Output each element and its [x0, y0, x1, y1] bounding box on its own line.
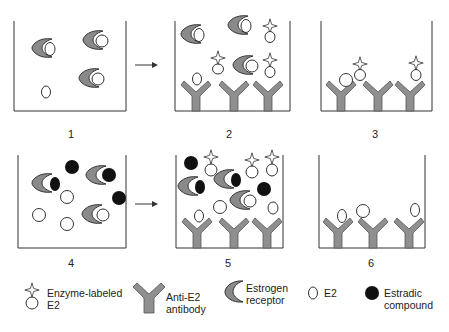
receptor-e2-complex — [82, 205, 109, 224]
enzyme-labeled-e2 — [263, 53, 277, 78]
legend-estradic-compound: Estradic compound — [384, 287, 433, 311]
panel-number-4: 4 — [61, 257, 81, 269]
anti-e2-antibody — [358, 218, 388, 248]
free-e2 — [33, 209, 46, 222]
bound-enzyme-labeled-e2 — [409, 56, 423, 81]
anti-e2-antibody — [394, 218, 424, 248]
anti-e2-antibody — [323, 218, 353, 248]
enzyme-labeled-e2-icon — [25, 283, 39, 309]
legend-label: E2 — [47, 299, 122, 311]
anti-e2-antibody — [253, 81, 283, 111]
estradic-compound — [257, 182, 271, 196]
anti-e2-antibody — [326, 81, 356, 111]
receptor-compound-complex — [178, 177, 205, 196]
crescent-receptor-icon — [225, 281, 243, 302]
receptor-e2-complex — [32, 39, 55, 58]
legend-label: Estradic — [384, 287, 433, 299]
panel-2 — [175, 16, 290, 111]
receptor-compound-complex — [214, 170, 241, 189]
legend-label: Anti-E2 — [166, 291, 206, 303]
panel-5 — [176, 150, 283, 248]
free-e2 — [61, 218, 74, 231]
receptor-e2-complex — [181, 25, 204, 44]
legend-e2: E2 — [324, 287, 337, 299]
receptor-compound-complex — [32, 174, 60, 193]
receptor-compound-complex — [86, 166, 116, 185]
legend-label: Enzyme-labeled — [47, 287, 122, 299]
legend-label: Estrogen — [246, 282, 288, 294]
bound-e2 — [340, 74, 353, 87]
legend-label: antibody — [166, 303, 206, 315]
receptor-e2-complex — [228, 16, 251, 35]
anti-e2-antibody — [182, 218, 212, 248]
free-e2 — [42, 86, 51, 98]
panel-1 — [14, 21, 126, 111]
legend-label: receptor — [246, 294, 288, 306]
well-outline — [14, 21, 126, 111]
enzyme-labeled-e2 — [204, 150, 218, 176]
bound-e2 — [338, 210, 347, 223]
panel-6 — [319, 155, 425, 248]
anti-e2-antibody — [252, 218, 282, 248]
anti-e2-antibody — [181, 81, 211, 111]
bound-enzyme-labeled-e2 — [353, 57, 367, 81]
panel-number-1: 1 — [61, 128, 81, 140]
panel-number-6: 6 — [361, 257, 381, 269]
arrow-4-to-5 — [135, 201, 158, 207]
receptor-e2-complex — [83, 31, 108, 50]
legend-enzyme-labeled-e2: Enzyme-labeled E2 — [47, 287, 122, 311]
filled-circle-icon — [365, 286, 379, 300]
panel-3 — [321, 21, 432, 111]
antibody-icon — [133, 283, 165, 313]
enzyme-labeled-e2 — [265, 150, 279, 176]
receptor-e2-complex — [233, 56, 258, 75]
enzyme-labeled-e2 — [263, 19, 277, 43]
bound-e2 — [411, 204, 420, 217]
estradic-compound — [65, 160, 79, 174]
legend-label: compound — [384, 299, 433, 311]
bound-e2 — [357, 205, 370, 218]
enzyme-labeled-e2 — [245, 153, 259, 178]
bound-e2 — [195, 210, 204, 222]
panel-number-5: 5 — [218, 257, 238, 269]
legend-estrogen-receptor: Estrogen receptor — [246, 282, 288, 306]
free-e2 — [193, 73, 202, 85]
bound-e2 — [214, 201, 227, 214]
anti-e2-antibody — [363, 81, 393, 111]
receptor-e2-complex — [79, 69, 104, 88]
estradic-compound — [112, 191, 126, 205]
anti-e2-antibody — [395, 81, 425, 111]
panel-number-2: 2 — [219, 128, 239, 140]
panel-number-3: 3 — [365, 128, 385, 140]
free-e2 — [61, 191, 74, 204]
arrow-1-to-2 — [135, 62, 158, 68]
assay-diagram — [0, 0, 449, 332]
panel-4 — [18, 155, 126, 248]
legend-anti-e2-antibody: Anti-E2 antibody — [166, 291, 206, 315]
anti-e2-antibody — [219, 218, 249, 248]
free-e2 — [268, 202, 278, 214]
estradic-compound — [184, 156, 198, 170]
anti-e2-antibody — [219, 81, 249, 111]
enzyme-labeled-e2 — [211, 51, 225, 74]
oval-e2-icon — [309, 287, 318, 299]
legend-label: E2 — [324, 287, 337, 299]
receptor-e2-complex — [230, 191, 256, 210]
